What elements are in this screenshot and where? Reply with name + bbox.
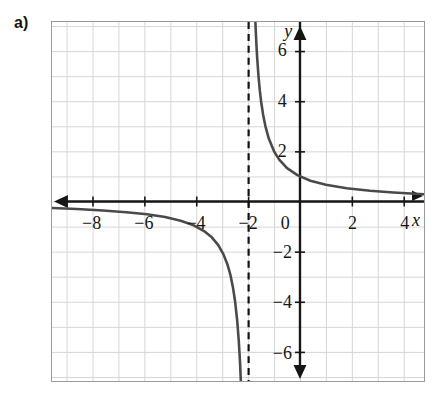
y-axis-name: y [284,21,292,42]
y-tick-label-6: 6 [278,40,287,61]
plot-frame [51,21,425,382]
x-tick-label-2: 2 [348,212,357,233]
y-tick-label-−2: −2 [273,241,292,262]
plot-canvas [52,22,424,381]
x-tick-label-0: 0 [281,212,290,233]
x-tick-label-−8: −8 [82,212,101,233]
x-tick-label-−2: −2 [239,212,258,233]
part-label: a) [14,14,29,32]
y-tick-label-4: 4 [278,90,287,111]
x-tick-label-4: 4 [400,212,409,233]
y-tick-label-−4: −4 [273,292,292,313]
x-tick-label-−6: −6 [134,212,153,233]
axes [54,22,424,379]
graph-figure: a) −8−6−4−2024−6−4−2246xy [0,0,435,393]
y-tick-label-−6: −6 [273,342,292,363]
x-axis-name: x [412,209,420,230]
y-tick-label-2: 2 [278,141,287,162]
x-tick-label-−4: −4 [186,212,205,233]
